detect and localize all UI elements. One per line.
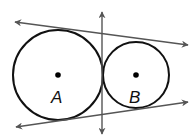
label-circle-a: A [50,88,62,107]
tangent-circles-diagram: A B [0,0,190,138]
center-point-a [55,72,61,78]
center-point-b [133,72,139,78]
label-circle-b: B [129,88,140,107]
